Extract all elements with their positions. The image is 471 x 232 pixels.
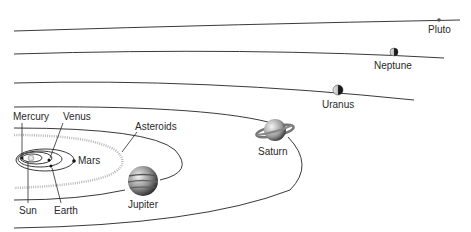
label-earth: Earth	[54, 206, 78, 216]
venus-icon	[48, 159, 51, 162]
pluto-orbit	[14, 20, 460, 31]
neptune-orbit	[14, 51, 444, 58]
uranus-icon	[333, 85, 343, 95]
mars-icon	[72, 159, 76, 163]
earth-icon	[50, 165, 53, 168]
pluto-icon	[437, 18, 441, 22]
jupiter-icon	[128, 166, 158, 196]
label-saturn: Saturn	[258, 147, 287, 157]
label-pluto: Pluto	[428, 25, 451, 35]
label-mercury: Mercury	[13, 112, 49, 122]
mars-orbit	[16, 149, 74, 171]
label-mars: Mars	[78, 156, 100, 166]
label-neptune: Neptune	[374, 61, 412, 71]
label-venus: Venus	[63, 112, 91, 122]
uranus-orbit	[14, 82, 414, 100]
inner-orbits	[16, 149, 74, 171]
neptune-icon	[390, 48, 398, 56]
label-uranus: Uranus	[322, 100, 354, 110]
sun-icon	[28, 155, 34, 161]
label-jupiter: Jupiter	[128, 200, 158, 210]
label-asteroids: Asteroids	[135, 122, 177, 132]
venus-orbit	[20, 152, 52, 164]
label-sun: Sun	[19, 206, 37, 216]
